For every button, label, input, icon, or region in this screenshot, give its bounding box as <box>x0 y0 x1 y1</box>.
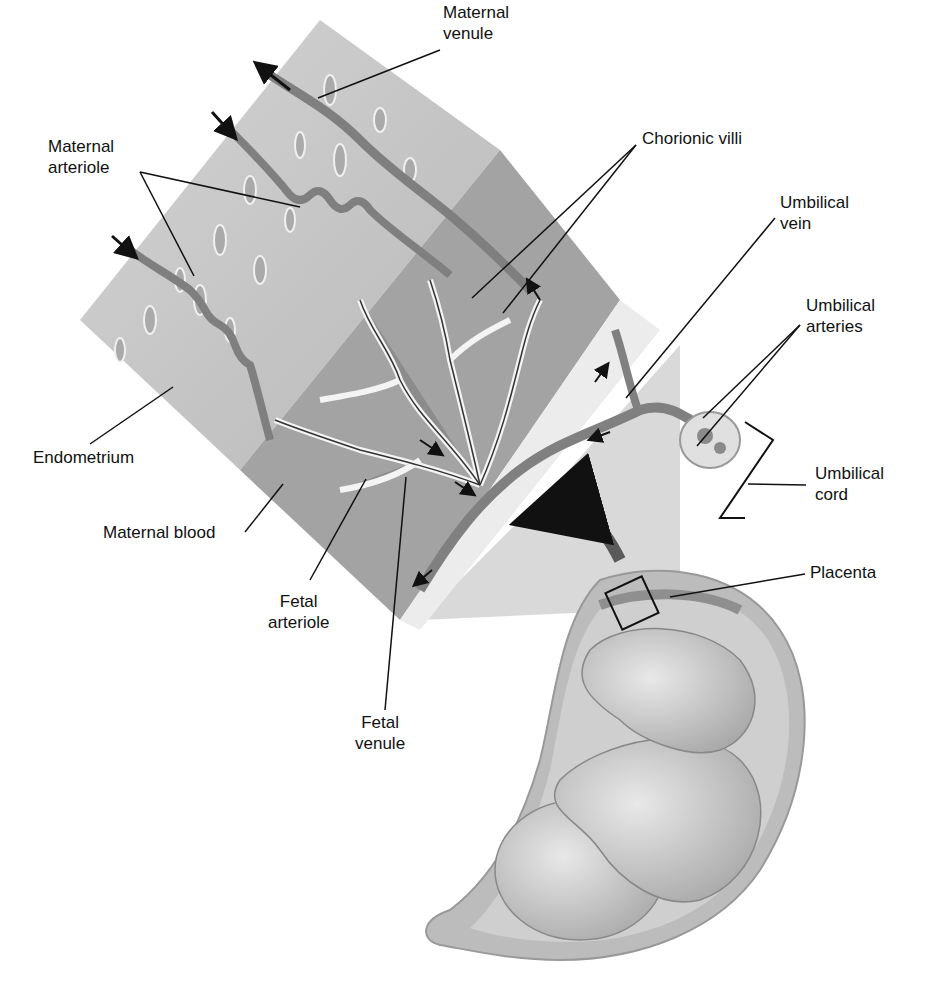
diagram-artwork <box>0 0 929 992</box>
uterus-with-fetus <box>426 571 805 960</box>
placenta-diagram: Maternal venule Maternal arteriole Chori… <box>0 0 929 992</box>
label-maternal-blood: Maternal blood <box>103 522 215 543</box>
label-endometrium: Endometrium <box>33 447 134 468</box>
label-maternal-arteriole: Maternal arteriole <box>48 136 114 178</box>
label-maternal-venule: Maternal venule <box>443 2 509 44</box>
label-fetal-arteriole: Fetal arteriole <box>268 591 329 633</box>
label-umbilical-arteries: Umbilical arteries <box>806 295 875 337</box>
label-umbilical-cord: Umbilical cord <box>815 463 884 505</box>
flow-arrow-in-arteriole-2 <box>112 236 130 252</box>
flow-arrow-in-arteriole-1 <box>212 112 230 132</box>
leader-umbilical-arteries-1 <box>703 325 800 418</box>
label-umbilical-vein: Umbilical vein <box>780 192 849 234</box>
leader-umbilical-cord <box>748 484 806 485</box>
label-fetal-venule: Fetal venule <box>355 712 405 754</box>
label-placenta: Placenta <box>810 562 876 583</box>
label-chorionic-villi: Chorionic villi <box>642 128 742 149</box>
leader-endometrium <box>90 387 173 444</box>
leader-umbilical-arteries-2 <box>697 325 800 446</box>
